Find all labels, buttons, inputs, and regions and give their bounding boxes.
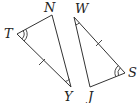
triangle-NTY-edges (17, 15, 71, 87)
vertex-label-T: T (4, 26, 14, 41)
vertex-label-W: W (75, 1, 90, 16)
triangle-WSJ: W S J (74, 1, 137, 103)
double-angle-mark-T-inner (22, 31, 24, 39)
vertex-label-J: J (85, 89, 94, 103)
vertex-label-S: S (128, 65, 137, 80)
tick-mark-TY (39, 59, 45, 65)
vertex-label-Y: Y (64, 89, 74, 103)
triangle-NTY: N T Y (4, 0, 74, 103)
vertex-label-N: N (43, 0, 56, 15)
double-angle-mark-S-inner (118, 68, 120, 76)
triangle-WSJ-edges (74, 17, 125, 87)
congruent-triangles-diagram: N T Y W S J (0, 0, 140, 103)
